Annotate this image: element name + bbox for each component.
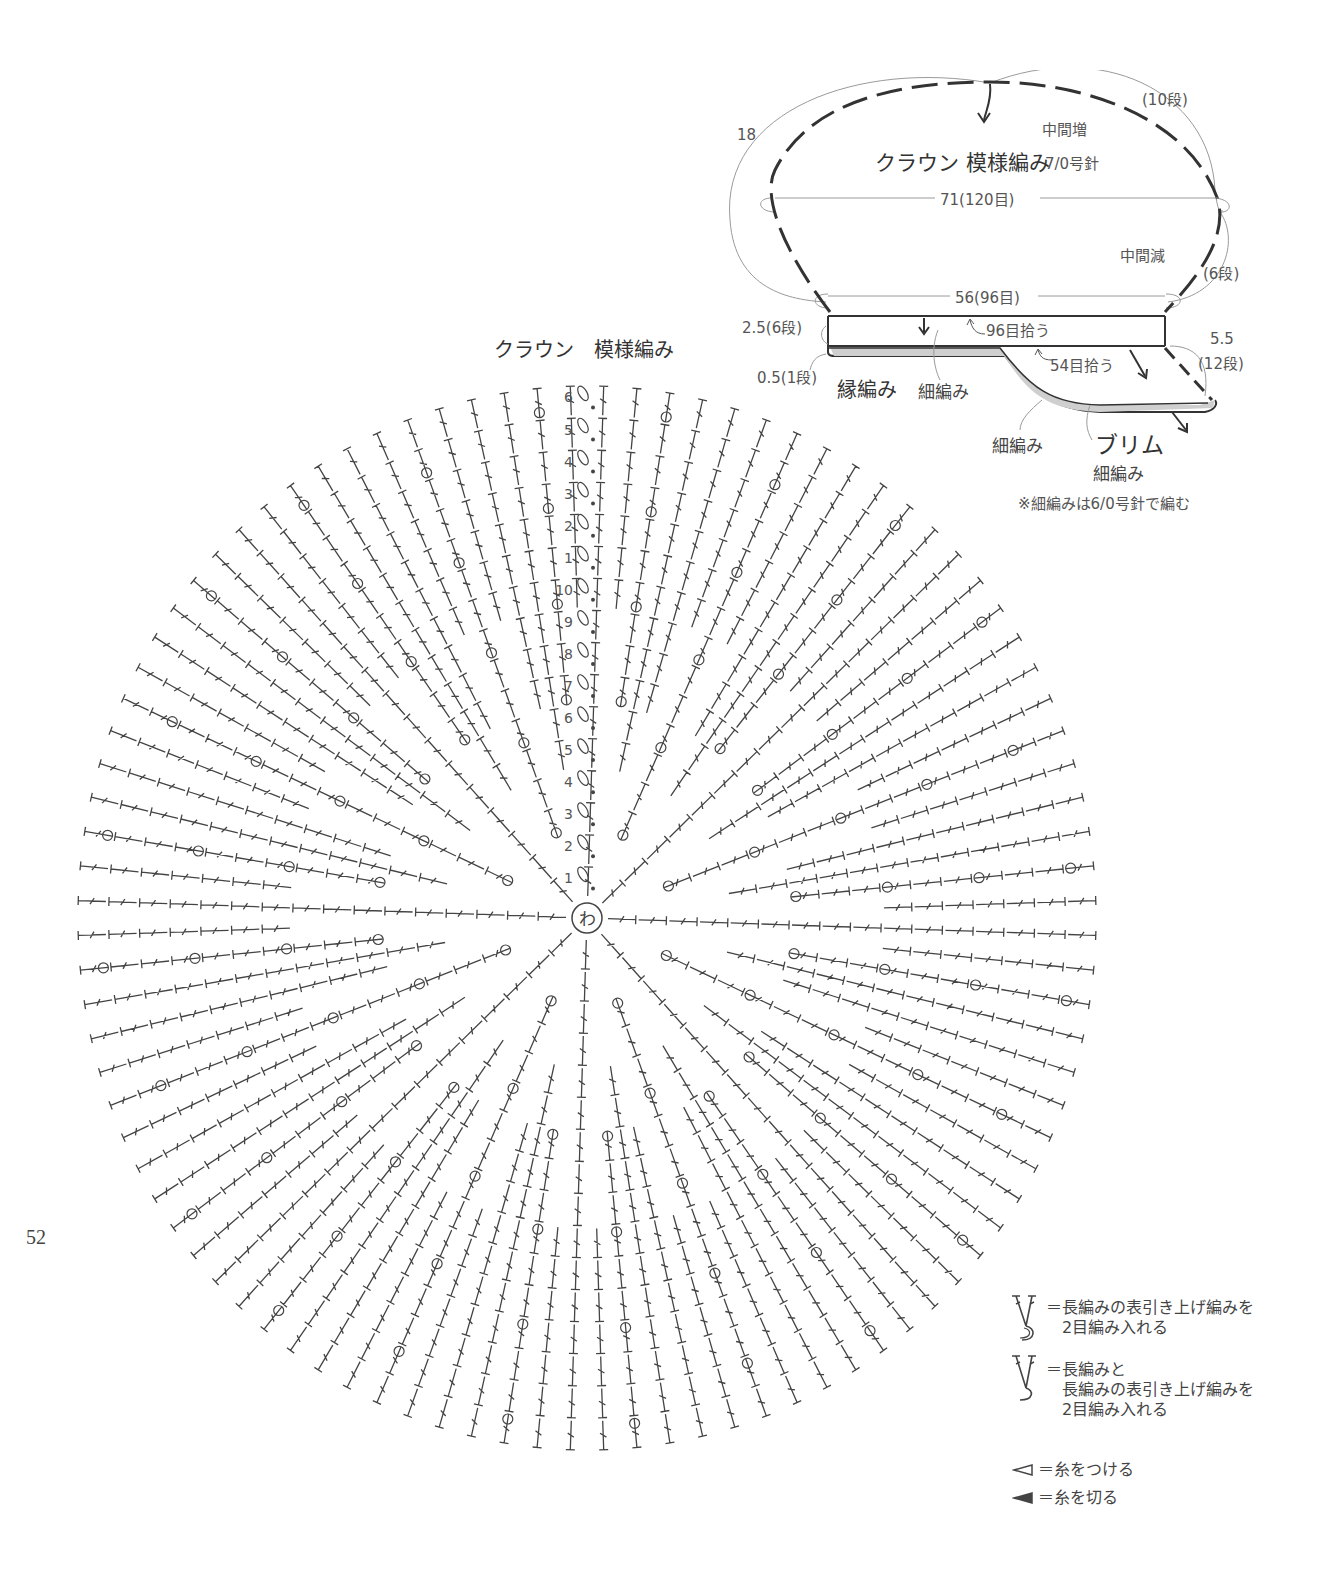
chain-stitch — [576, 609, 591, 627]
chain-stitch — [576, 769, 591, 787]
stitch-spoke — [373, 432, 465, 635]
chain-stitch — [576, 737, 591, 755]
stitch-spoke — [212, 933, 571, 1285]
slip-stitch — [591, 438, 595, 442]
row-number: 6 — [564, 389, 573, 405]
stitch-spoke — [78, 896, 566, 921]
stitch-spoke — [883, 947, 1094, 975]
stitch-spoke — [533, 1227, 560, 1448]
magic-ring-label: わ — [579, 909, 596, 929]
row-number: 4 — [564, 774, 573, 790]
stitch-spoke — [605, 1131, 641, 1448]
magic-ring: わ — [572, 903, 602, 933]
row-number: 9 — [564, 614, 573, 630]
legend-text-line: 長編みの表引き上げ編みを — [1046, 1380, 1254, 1400]
legend-text-line: ＝長編みと — [1046, 1360, 1254, 1380]
stitch-spoke — [783, 980, 1075, 1076]
stitch-spoke — [90, 793, 447, 884]
slip-stitch — [591, 630, 595, 634]
chain-stitch — [576, 384, 591, 402]
stitch-spoke — [84, 827, 385, 884]
chain-stitch — [576, 641, 591, 659]
stitch-spoke — [858, 694, 1053, 790]
row-number: 2 — [564, 518, 573, 534]
stitch-spoke — [695, 464, 859, 736]
stitch-spoke — [620, 392, 675, 706]
stitch-spoke — [791, 861, 1094, 899]
stitch-spoke — [287, 1040, 503, 1353]
row-number: 7 — [564, 678, 573, 694]
slip-stitch — [591, 470, 595, 474]
stitch-spoke — [608, 915, 1096, 940]
page-number: 52 — [26, 1226, 46, 1249]
stitch-spoke — [171, 605, 471, 831]
stitch-spoke — [790, 527, 938, 692]
legend-text-line: 2目編み入れる — [1046, 1318, 1254, 1338]
stitch-spoke — [566, 940, 590, 1450]
legend-item-dc-and-front-post: ＝長編みと 長編みの表引き上げ編みを 2目編み入れる — [1008, 1352, 1254, 1420]
chain-stitch — [576, 833, 591, 851]
slip-stitch — [591, 854, 595, 858]
row-number: 2 — [564, 838, 573, 854]
join-yarn-icon — [1012, 1460, 1036, 1480]
stitch-spoke — [620, 399, 707, 772]
front-post-dc-2-in-1-icon — [1008, 1292, 1044, 1342]
stitch-spoke — [710, 1201, 802, 1405]
row-number: 3 — [564, 806, 573, 822]
stitch-spoke — [500, 1130, 554, 1444]
row-number: 5 — [564, 742, 573, 758]
stitch-spoke — [236, 1145, 384, 1310]
stitch-spoke — [593, 1228, 608, 1450]
stitch-spoke — [152, 633, 412, 805]
row-number: 1 — [564, 870, 573, 886]
stitch-spoke — [671, 483, 887, 796]
stitch-spoke — [804, 1130, 962, 1285]
chain-stitch — [576, 705, 591, 723]
dc-and-front-post-dc-2-in-1-icon — [1008, 1352, 1044, 1402]
row-number: 4 — [564, 454, 573, 470]
stitch-spoke — [601, 934, 938, 1309]
slip-stitch — [591, 534, 595, 538]
legend-text-line: 2目編み入れる — [1046, 1400, 1254, 1420]
chain-stitch — [576, 513, 591, 531]
stitch-spoke — [236, 527, 573, 902]
slip-stitch — [591, 790, 595, 794]
slip-stitch — [591, 886, 595, 890]
stitch-spoke — [602, 551, 961, 903]
stitch-spoke — [122, 1046, 317, 1142]
stitch-spoke — [212, 551, 370, 706]
chain-stitch — [576, 545, 591, 563]
slip-stitch — [591, 726, 595, 730]
row-number: 8 — [564, 646, 573, 662]
row-number: 6 — [564, 710, 573, 726]
cut-yarn-icon — [1012, 1488, 1036, 1508]
chain-stitch — [576, 801, 591, 819]
slip-stitch — [591, 694, 595, 698]
stitch-spoke — [761, 1031, 1021, 1203]
stitch-spoke — [78, 925, 290, 940]
chain-stitch — [576, 673, 591, 691]
stitch-spoke — [727, 952, 1084, 1043]
row-number: 1 — [564, 550, 573, 566]
stitch-spoke — [467, 1064, 554, 1437]
legend-text-line: ＝糸をつける — [1038, 1460, 1134, 1480]
legend-text-line: ＝糸を切る — [1038, 1488, 1118, 1508]
stitch-spoke — [80, 861, 291, 889]
symbol-legend: ＝長編みの表引き上げ編みを 2目編み入れる ＝長編みと 長編みの表引き上げ編みを… — [1008, 1292, 1308, 1522]
slip-stitch — [591, 566, 595, 570]
stitch-spoke — [614, 388, 641, 609]
stitch-spoke — [704, 1006, 1004, 1232]
legend-item-cut-yarn: ＝糸を切る — [1012, 1488, 1118, 1508]
chain-stitch — [576, 417, 591, 435]
slip-stitch — [591, 822, 595, 826]
legend-text-line: ＝長編みの表引き上げ編みを — [1046, 1298, 1254, 1318]
chain-stitch — [576, 481, 591, 499]
slip-stitch — [591, 662, 595, 666]
slip-stitch — [591, 405, 595, 409]
slip-stitch — [591, 598, 595, 602]
chain-stitch — [576, 577, 591, 595]
stitch-spoke — [99, 759, 391, 856]
legend-item-front-post-2in1: ＝長編みの表引き上げ編みを 2目編み入れる — [1008, 1292, 1254, 1342]
row-number: 5 — [564, 422, 573, 438]
slip-stitch — [591, 502, 595, 506]
